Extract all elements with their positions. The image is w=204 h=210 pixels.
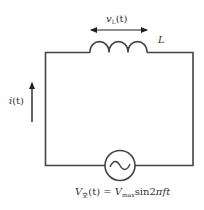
eq-rhs-func: sin2 bbox=[135, 186, 156, 197]
eq-rhs-tail: ft bbox=[162, 186, 170, 197]
eq-lhs-arg: (t) bbox=[88, 186, 100, 197]
circuit-drawing bbox=[0, 0, 204, 210]
eq-rhs-var: V bbox=[115, 186, 122, 197]
inductor-coil-icon bbox=[90, 42, 147, 53]
inductor-name-label: L bbox=[158, 35, 165, 45]
ac-inductor-circuit-diagram: vL(t) L i(t) V交(t) = Vmaxsin2πft bbox=[0, 0, 204, 210]
eq-rhs-subscript: max bbox=[122, 191, 135, 198]
ac-source-icon bbox=[105, 151, 135, 181]
inductor-voltage-label: vL(t) bbox=[106, 14, 127, 25]
source-equation-label: V交(t) = Vmaxsin2πft bbox=[75, 187, 170, 198]
current-label: i(t) bbox=[9, 96, 24, 106]
voltage-arg: (t) bbox=[116, 13, 128, 24]
inductor-name: L bbox=[158, 34, 165, 45]
eq-equals: = bbox=[103, 186, 111, 197]
circuit-wires bbox=[46, 53, 194, 166]
current-arg: (t) bbox=[12, 95, 24, 106]
